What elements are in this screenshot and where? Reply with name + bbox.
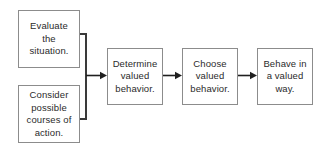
node-behave-in-valued-way: Behave in a valued way. [257,48,313,105]
node-choose-valued-behavior: Choose valued behavior. [182,48,238,105]
node-evaluate-situation-label: Evaluate the situation. [27,20,70,58]
flowchart-diagram: Evaluate the situation. Consider possibl… [0,0,325,152]
arrow-determine-to-choose-icon [163,71,182,80]
node-consider-courses: Consider possible courses of action. [18,85,80,143]
arrow-merge-to-determine-icon [86,71,107,80]
node-determine-valued-behavior: Determine valued behavior. [107,48,163,105]
node-determine-valued-behavior-label: Determine valued behavior. [111,58,160,96]
node-consider-courses-label: Consider possible courses of action. [25,89,74,139]
node-choose-valued-behavior-label: Choose valued behavior. [188,58,231,96]
node-behave-in-valued-way-label: Behave in a valued way. [261,58,308,96]
node-evaluate-situation: Evaluate the situation. [18,10,80,68]
arrow-choose-to-behave-icon [238,71,257,80]
